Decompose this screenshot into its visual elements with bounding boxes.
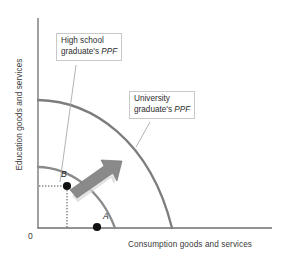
leader-line-high-school (60, 65, 76, 182)
callout-high-school-line1: High school (61, 36, 117, 47)
y-axis-label: Education goods and services (15, 35, 24, 195)
callout-high-school-line2: graduate's PPF (61, 47, 117, 58)
callout-high-school-ppf: High school graduate's PPF (56, 33, 122, 61)
point-marker-a (93, 223, 101, 231)
callout-university-prefix: graduate's (134, 105, 174, 114)
callout-university-ppf-abbr: PPF (174, 105, 190, 114)
origin-label: 0 (28, 231, 33, 241)
callout-high-school-prefix: graduate's (61, 47, 101, 56)
callout-high-school-ppf-abbr: PPF (101, 47, 117, 56)
point-label-a: A (103, 211, 109, 221)
figure-canvas (0, 0, 281, 262)
point-label-b: B (61, 169, 67, 179)
ppf-figure: Education goods and services Consumption… (0, 0, 281, 262)
point-marker-b (63, 182, 71, 190)
callout-university-line1: University (134, 94, 190, 105)
x-axis-label: Consumption goods and services (128, 240, 252, 249)
callout-university-line2: graduate's PPF (134, 105, 190, 116)
leader-line-university (136, 122, 150, 147)
callout-university-ppf: University graduate's PPF (129, 91, 195, 119)
